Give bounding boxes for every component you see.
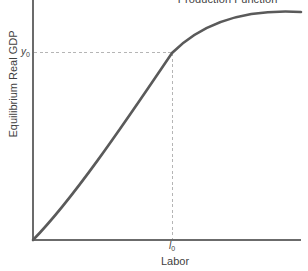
chart-title: Production Function xyxy=(150,0,305,5)
x-tick-subscript: 0 xyxy=(171,245,175,252)
y-tick-subscript: 0 xyxy=(26,51,30,58)
production-function-curve xyxy=(33,12,301,240)
x-axis-label: Labor xyxy=(115,255,235,267)
y-axis-tick-label: y0 xyxy=(14,46,30,57)
x-axis-tick-label: l0 xyxy=(164,240,180,251)
production-function-chart: Production Function Equilibrium Real GDP… xyxy=(0,0,308,271)
plot-area xyxy=(0,0,308,271)
y-axis-label: Equilibrium Real GDP xyxy=(7,9,19,159)
